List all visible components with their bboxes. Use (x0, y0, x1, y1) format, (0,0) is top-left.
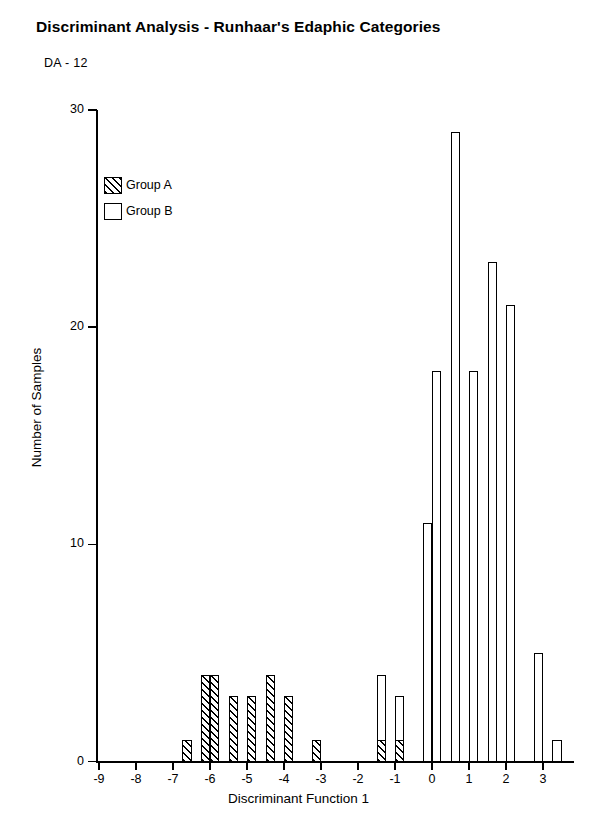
y-tick (88, 109, 97, 111)
y-axis-line (96, 110, 98, 762)
x-tick-label: -2 (338, 772, 378, 786)
x-axis-label: Discriminant Function 1 (0, 791, 597, 806)
histogram-bar (210, 675, 219, 763)
chart-plot-area: -9-8-7-6-5-4-3-2-101230102030 (0, 0, 597, 813)
x-tick-label: -5 (227, 772, 267, 786)
x-tick (172, 762, 174, 770)
histogram-bar (451, 132, 460, 763)
x-tick (320, 762, 322, 770)
histogram-bar (395, 696, 404, 740)
x-tick-label: -1 (375, 772, 415, 786)
y-tick-label: 20 (44, 319, 84, 333)
histogram-bar (201, 675, 210, 763)
histogram-bar (506, 305, 515, 762)
histogram-bar (377, 740, 386, 763)
x-tick-label: -9 (79, 772, 119, 786)
legend-item: Group B (104, 198, 173, 224)
histogram-bar (377, 675, 386, 741)
x-tick (394, 762, 396, 770)
x-tick (505, 762, 507, 770)
x-tick-label: 1 (449, 772, 489, 786)
x-tick (431, 762, 433, 770)
legend-swatch-group-a (104, 177, 122, 194)
x-tick-label: -8 (116, 772, 156, 786)
x-tick (542, 762, 544, 770)
y-axis-label: Number of Samples (29, 308, 44, 508)
histogram-bar (534, 653, 543, 763)
x-tick-label: 3 (523, 772, 563, 786)
legend-label-group-a: Group A (126, 178, 172, 192)
histogram-bar (432, 371, 441, 763)
histogram-bar (423, 523, 432, 763)
y-tick-label: 30 (44, 102, 84, 116)
histogram-bar (469, 371, 478, 763)
histogram-bar (395, 740, 404, 763)
x-tick-label: 0 (412, 772, 452, 786)
x-tick (209, 762, 211, 770)
histogram-bar (284, 696, 293, 762)
x-tick-label: -7 (153, 772, 193, 786)
y-tick-label: 10 (44, 536, 84, 550)
legend-item: Group A (104, 172, 173, 198)
legend-label-group-b: Group B (126, 204, 173, 218)
x-tick (283, 762, 285, 770)
x-tick-label: -3 (301, 772, 341, 786)
histogram-bar (229, 696, 238, 762)
y-tick (88, 761, 97, 763)
x-tick (98, 762, 100, 770)
y-tick (88, 544, 97, 546)
y-tick (88, 326, 97, 328)
x-axis-line (96, 761, 574, 763)
histogram-bar (266, 675, 275, 763)
x-tick-label: -6 (190, 772, 230, 786)
legend-swatch-group-b (104, 203, 122, 220)
x-tick (246, 762, 248, 770)
x-tick (468, 762, 470, 770)
histogram-bar (312, 740, 321, 763)
chart-legend: Group A Group B (104, 172, 173, 224)
y-tick-label: 0 (44, 754, 84, 768)
x-tick (135, 762, 137, 770)
histogram-bar (182, 740, 191, 763)
histogram-bar (488, 262, 497, 763)
x-tick (357, 762, 359, 770)
x-tick-label: -4 (264, 772, 304, 786)
x-tick-label: 2 (486, 772, 526, 786)
histogram-bar (552, 740, 561, 763)
histogram-bar (247, 696, 256, 762)
